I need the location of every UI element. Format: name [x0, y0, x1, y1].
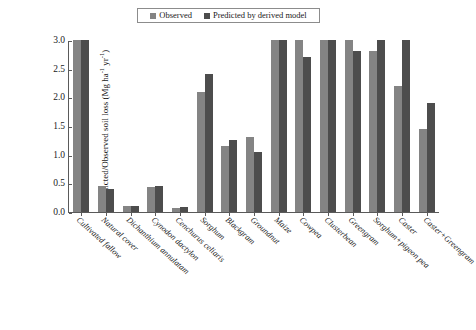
x-axis-labels: Cultivated fallowNatural coverDichanthiu…	[68, 214, 439, 314]
x-axis-label-slot: Groundnut	[241, 214, 266, 314]
legend-label-predicted: Predicted by derived model	[213, 11, 307, 20]
bar-predicted	[377, 40, 385, 212]
bar-observed	[147, 187, 155, 212]
x-axis-label-slot: Clusterbean	[315, 214, 340, 314]
legend-item-observed: Observed	[150, 11, 192, 20]
bar-predicted	[353, 51, 361, 212]
bar-group	[414, 41, 439, 212]
x-axis-label-slot: Sorghum	[192, 214, 217, 314]
bar-observed	[123, 206, 131, 212]
x-axis-label-slot: Dichanthium annulatam	[117, 214, 142, 314]
bar-group	[365, 41, 390, 212]
y-axis-tick-label: 2.0	[39, 94, 65, 104]
bar-group	[242, 41, 267, 212]
bar-observed	[98, 186, 106, 212]
legend-swatch-predicted	[204, 13, 210, 19]
bar-observed	[369, 51, 377, 212]
bar-predicted	[106, 189, 114, 212]
bar-predicted	[402, 40, 410, 212]
bar-observed	[345, 40, 353, 212]
bar-group	[94, 41, 119, 212]
bar-group	[316, 41, 341, 212]
bar-group	[390, 41, 415, 212]
bar-observed	[271, 40, 279, 212]
y-axis-tick-label: 0.0	[39, 208, 65, 218]
bar-group	[118, 41, 143, 212]
bar-predicted	[180, 207, 188, 212]
bar-group	[217, 41, 242, 212]
bar-predicted	[303, 57, 311, 212]
bar-group	[266, 41, 291, 212]
bar-group	[143, 41, 168, 212]
bar-predicted	[81, 40, 89, 212]
bar-observed	[419, 129, 427, 212]
x-axis-label-slot: Sorghum+pigeon pea	[365, 214, 390, 314]
y-axis-tick-label: 3.0	[39, 36, 65, 46]
bar-predicted	[229, 140, 237, 212]
bar-group	[291, 41, 316, 212]
x-axis-label-slot: Cultivated fallow	[68, 214, 93, 314]
legend-swatch-observed	[150, 13, 156, 19]
y-axis-tick-label: 0.5	[39, 180, 65, 190]
bar-predicted	[328, 40, 336, 212]
plot-area: Predicted/Observed soil loss (Mg ha-1 yr…	[68, 41, 439, 213]
x-axis-label: Caster+Greengram	[421, 216, 475, 266]
x-axis-label-slot: Cynodon dactylon	[142, 214, 167, 314]
bar-group	[192, 41, 217, 212]
bar-predicted	[131, 206, 139, 212]
bar-groups	[69, 41, 439, 212]
x-axis-label-slot: Caster+Greengram	[414, 214, 439, 314]
x-axis-label-slot: Natural cover	[93, 214, 118, 314]
y-axis-tick-label: 1.0	[39, 151, 65, 161]
x-axis-label-slot: Maize	[266, 214, 291, 314]
bar-predicted	[205, 74, 213, 212]
x-axis-label-slot: Caster	[390, 214, 415, 314]
bar-observed	[320, 40, 328, 212]
bar-predicted	[427, 103, 435, 212]
legend-item-predicted: Predicted by derived model	[204, 11, 307, 20]
bar-observed	[246, 137, 254, 212]
bar-predicted	[155, 186, 163, 212]
bar-predicted	[279, 40, 287, 212]
bar-group	[340, 41, 365, 212]
bar-observed	[197, 92, 205, 212]
bar-observed	[221, 146, 229, 212]
x-axis-label-slot: Greengram	[340, 214, 365, 314]
chart-legend: Observed Predicted by derived model	[137, 8, 320, 23]
legend-label-observed: Observed	[159, 11, 192, 20]
y-axis-tick-label: 2.5	[39, 65, 65, 75]
bar-observed	[172, 208, 180, 212]
bar-observed	[73, 40, 81, 212]
bar-group	[168, 41, 193, 212]
bar-observed	[394, 86, 402, 212]
x-axis-label-slot: Cowpea	[291, 214, 316, 314]
bar-observed	[295, 40, 303, 212]
bar-predicted	[254, 152, 262, 212]
y-axis-tick-label: 1.5	[39, 122, 65, 132]
x-axis-label-slot: Blackgram	[216, 214, 241, 314]
x-axis-label-slot: Cenchurus celiaris	[167, 214, 192, 314]
bar-group	[69, 41, 94, 212]
